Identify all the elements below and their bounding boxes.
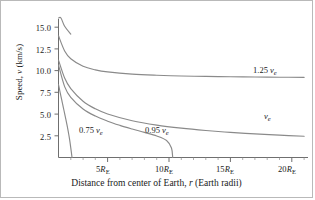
y-tick-label-15p0: 15.0 <box>25 23 51 33</box>
y-tick-label-2p5: 2.5 <box>25 132 51 142</box>
curve-0.95-v_e <box>59 65 173 157</box>
curve-label-1p25ve: 1.25 ve <box>253 65 277 75</box>
curve-label-1p25-coef: 1.25 <box>253 65 270 75</box>
y-axis-title-units: (km/s) <box>14 44 24 70</box>
y-tick-label-10p0: 10.0 <box>25 66 51 76</box>
y-axis-title: Speed, v (km/s) <box>14 17 24 127</box>
curve-label-0p95-sub: e <box>166 129 169 136</box>
y-axis-title-var: v <box>14 70 24 74</box>
x-tick-20-value: 20 <box>278 164 287 174</box>
curve-label-ve: ve <box>264 111 271 121</box>
curve-label-ve-sub: e <box>268 115 271 122</box>
x-axis-title-part2: (Earth radii) <box>193 178 242 188</box>
curve-label-0p75-coef: 0.75 <box>79 125 96 135</box>
x-tick-marks-major <box>108 158 292 163</box>
x-axis-title-part1: Distance from center of Earth, <box>71 178 189 188</box>
x-tick-10-value: 10 <box>155 164 164 174</box>
x-tick-20-sub: E <box>292 168 296 175</box>
curve-label-1p25-sub: e <box>274 69 277 76</box>
x-tick-15-value: 15 <box>216 164 225 174</box>
curve-upper-partial-off-top- <box>59 17 71 34</box>
x-axis-title: Distance from center of Earth, r (Earth … <box>1 178 312 188</box>
y-tick-label-7p5: 7.5 <box>25 88 51 98</box>
x-tick-label-10RE: 10RE <box>155 164 173 174</box>
y-axis-title-prefix: Speed, <box>14 74 24 101</box>
x-tick-label-20RE: 20RE <box>278 164 296 174</box>
curve-label-0p75-sub: e <box>100 129 103 136</box>
figure-container: 2.5 5.0 7.5 10.0 12.5 15.0 5RE 10RE 15RE… <box>0 0 313 198</box>
x-tick-label-15RE: 15RE <box>216 164 234 174</box>
curve-label-0p75ve: 0.75 ve <box>79 125 103 135</box>
x-tick-15-sub: E <box>230 168 234 175</box>
y-tick-marks <box>55 27 59 136</box>
y-tick-label-5p0: 5.0 <box>25 110 51 120</box>
y-tick-label-12p5: 12.5 <box>25 45 51 55</box>
x-tick-5-unit: R <box>100 164 105 174</box>
data-curves <box>59 17 305 157</box>
x-tick-5-sub: E <box>106 168 110 175</box>
curve-label-0p95ve: 0.95 ve <box>145 125 169 135</box>
x-tick-10-sub: E <box>169 168 173 175</box>
curve-label-0p95-coef: 0.95 <box>145 125 162 135</box>
x-tick-label-5RE: 5RE <box>96 164 110 174</box>
